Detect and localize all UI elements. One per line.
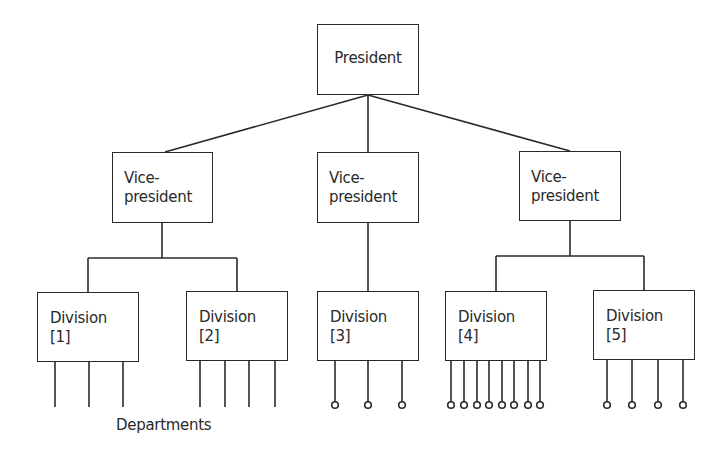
division-label-line1: Division: [330, 308, 387, 327]
vice-president-node-3: Vice- president: [519, 151, 621, 221]
division-label-line1: Division: [458, 308, 515, 327]
vp-label-line2: president: [329, 188, 397, 207]
vp-label-line1: Vice-: [329, 169, 397, 188]
division-label-line2: [1]: [50, 328, 107, 347]
vp-label-line1: Vice-: [124, 169, 192, 188]
president-label: President: [318, 49, 418, 68]
division-node-3: Division [3]: [317, 291, 419, 361]
division-label-line1: Division: [606, 307, 663, 326]
division-label-line2: [4]: [458, 327, 515, 346]
vice-president-node-2: Vice- president: [317, 152, 419, 223]
departments-label: Departments: [116, 416, 211, 434]
division-label-line2: [5]: [606, 326, 663, 345]
division-label-line1: Division: [50, 309, 107, 328]
division-label-line2: [2]: [199, 327, 256, 346]
division-node-1: Division [1]: [37, 292, 139, 362]
vp-label-line1: Vice-: [531, 168, 599, 187]
division-label-line2: [3]: [330, 327, 387, 346]
division-node-2: Division [2]: [186, 291, 288, 361]
division-label-line1: Division: [199, 308, 256, 327]
division-node-5: Division [5]: [593, 290, 695, 360]
division-node-4: Division [4]: [445, 291, 547, 361]
president-node: President: [317, 24, 419, 95]
vice-president-node-1: Vice- president: [112, 152, 213, 223]
vp-label-line2: president: [124, 188, 192, 207]
vp-label-line2: president: [531, 187, 599, 206]
